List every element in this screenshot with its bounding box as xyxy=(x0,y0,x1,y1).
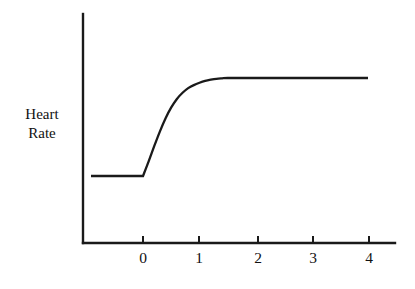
heart-rate-curve xyxy=(91,78,368,176)
heart-rate-chart-figure: Heart Rate 01234 xyxy=(0,0,415,289)
x-axis-tick-label-2: 2 xyxy=(245,250,271,266)
data-series-group xyxy=(91,78,368,176)
y-axis-label-line-1: Heart xyxy=(8,105,76,124)
chart-canvas xyxy=(0,0,415,289)
x-axis-tick-label-4: 4 xyxy=(356,250,382,266)
y-axis-label: Heart Rate xyxy=(8,105,76,143)
x-axis-tick-label-3: 3 xyxy=(300,250,326,266)
y-axis-label-line-2: Rate xyxy=(8,124,76,143)
x-axis-tick-label-0: 0 xyxy=(130,250,156,266)
x-axis-tick-label-1: 1 xyxy=(186,250,212,266)
axes-group xyxy=(83,14,395,243)
